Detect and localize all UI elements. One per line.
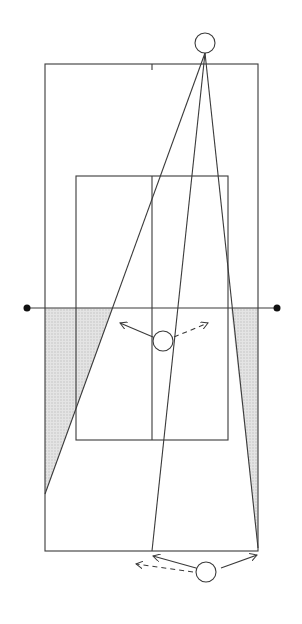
- shot-line: [205, 53, 258, 548]
- movement-arrows: [120, 323, 257, 572]
- solid-arrow-icon: [221, 555, 257, 568]
- shot-line: [152, 53, 205, 551]
- baseline-player-icon: [196, 562, 216, 582]
- net-post-icon: [274, 305, 281, 312]
- dashed-arrow-icon: [174, 323, 208, 337]
- net-post-icon: [24, 305, 31, 312]
- solid-arrow-icon: [120, 323, 153, 337]
- court-lines: [24, 64, 281, 551]
- top-player-icon: [195, 33, 215, 53]
- tennis-court-diagram: [0, 0, 302, 624]
- net-player-icon: [153, 331, 173, 351]
- solid-arrow-icon: [153, 556, 196, 568]
